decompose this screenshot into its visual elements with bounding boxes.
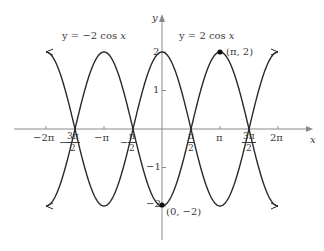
y-tick-neg1: −1 [146, 162, 161, 172]
chart-area: y = −2 cos x y = 2 cos x y x (π, 2) (0, … [0, 0, 324, 251]
x-tick-pi: π [216, 133, 223, 143]
x-tick-negpi: −π [94, 133, 109, 143]
x-axis-arrow-icon [306, 126, 313, 132]
series-label-neg2cos: y = −2 cos x [62, 31, 126, 41]
series-label-neg2cos-text: y = −2 cos [62, 30, 120, 41]
plot-svg [0, 0, 324, 251]
y-axis-arrow-icon [159, 14, 165, 22]
x-tick-negpi2-num: π [128, 132, 136, 143]
point-pi-2 [217, 49, 222, 54]
series-label-2cos: y = 2 cos x [179, 31, 235, 41]
x-tick-negpi2: π 2 [128, 132, 136, 153]
x-tick-3pi2-den: 2 [242, 143, 256, 153]
x-tick-neg2pi: −2π [33, 133, 54, 143]
annotation-0-neg2: (0, −2) [166, 207, 201, 217]
x-tick-negpi2-den: 2 [128, 143, 136, 153]
series-label-neg2cos-var: x [120, 30, 126, 41]
y-tick-neg2: −2 [146, 199, 161, 209]
x-tick-pi2-den: 2 [187, 143, 195, 153]
x-tick-neg3pi2-den: 2 [66, 143, 80, 153]
x-tick-3pi2-num: 3π [242, 132, 256, 143]
series-label-2cos-var: x [229, 30, 235, 41]
x-tick-neg3pi2-num: 3π [66, 132, 80, 143]
x-tick-neg3pi2: 3π 2 [66, 132, 80, 153]
y-tick-1: 1 [153, 85, 159, 95]
series-label-2cos-text: y = 2 cos [179, 30, 229, 41]
x-tick-2pi: 2π [270, 133, 283, 143]
y-axis-label: y [152, 13, 158, 23]
x-tick-pi2: π 2 [187, 132, 195, 153]
x-tick-3pi2: 3π 2 [242, 132, 256, 153]
y-tick-2: 2 [153, 47, 159, 57]
x-axis-label: x [310, 135, 316, 145]
x-tick-pi2-num: π [187, 132, 195, 143]
annotation-pi-2: (π, 2) [226, 47, 253, 57]
